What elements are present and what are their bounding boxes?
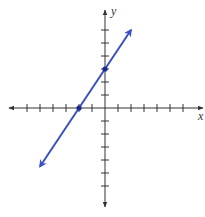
coordinate-plane: x y (0, 0, 205, 217)
x-axis (9, 104, 203, 112)
data-line (40, 30, 131, 167)
y-axis-label: y (110, 4, 117, 18)
x-axis-label: x (197, 109, 204, 123)
data-point (102, 66, 107, 71)
data-point (76, 105, 81, 110)
